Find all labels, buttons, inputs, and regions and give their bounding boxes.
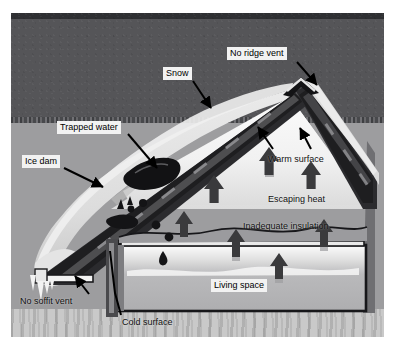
label-inadequate-insulation: Inadequate insulation (243, 221, 329, 232)
label-trapped-water: Trapped water (57, 121, 121, 134)
house-cross-section (11, 13, 384, 337)
label-living-space: Living space (211, 279, 267, 292)
label-cold-surface: Cold surface (122, 317, 173, 328)
label-no-soffit-vent: No soffit vent (20, 296, 72, 307)
illustration-scene: No ridge vent Snow Trapped water Ice dam… (11, 13, 384, 337)
label-escaping-heat: Escaping heat (268, 194, 325, 205)
living-space-room (118, 241, 366, 311)
label-warm-surface: Warm surface (268, 154, 324, 165)
exterior-wall (106, 239, 118, 317)
figure-root: No ridge vent Snow Trapped water Ice dam… (0, 0, 393, 344)
label-no-ridge-vent: No ridge vent (227, 47, 287, 60)
label-ice-dam: Ice dam (22, 155, 60, 168)
label-snow: Snow (163, 67, 192, 80)
